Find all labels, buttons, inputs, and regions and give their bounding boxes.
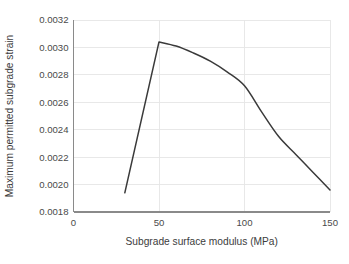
y-tick-label: 0.0024 <box>39 124 69 135</box>
y-tick-label: 0.0030 <box>39 42 68 53</box>
y-tick-label: 0.0026 <box>39 97 68 108</box>
chart-figure: 0.00180.00200.00220.00240.00260.00280.00… <box>0 0 349 264</box>
y-tick-label: 0.0032 <box>39 14 68 25</box>
y-tick-label: 0.0018 <box>39 206 68 217</box>
x-tick-label: 150 <box>322 217 338 228</box>
x-axis-title: Subgrade surface modulus (MPa) <box>126 236 278 247</box>
y-axis-title: Maximum permitted subgrade strain <box>4 35 15 198</box>
y-tick-label: 0.0028 <box>39 69 68 80</box>
x-tick-label: 0 <box>71 217 76 228</box>
x-tick-label: 100 <box>236 217 252 228</box>
line-chart: 0.00180.00200.00220.00240.00260.00280.00… <box>0 0 349 264</box>
y-tick-label: 0.0020 <box>39 179 68 190</box>
y-tick-label: 0.0022 <box>39 152 68 163</box>
x-tick-label: 50 <box>154 217 165 228</box>
